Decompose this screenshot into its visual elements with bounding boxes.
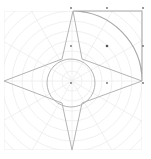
- grid-spoke: [72, 0, 132, 81]
- resize-handle-dot[interactable]: [70, 45, 72, 47]
- resize-handle-dot[interactable]: [142, 45, 144, 47]
- center-handle-dot[interactable]: [106, 45, 109, 48]
- resize-handle-dot[interactable]: [70, 7, 72, 9]
- grid-spoke: [12, 0, 72, 81]
- diagram-canvas: [0, 0, 151, 159]
- resize-handle-dot[interactable]: [142, 82, 144, 84]
- resize-handle-dot[interactable]: [142, 7, 144, 9]
- resize-handle-dot[interactable]: [106, 7, 108, 9]
- resize-handle-dot[interactable]: [106, 82, 108, 84]
- resize-handle-dot[interactable]: [70, 82, 72, 84]
